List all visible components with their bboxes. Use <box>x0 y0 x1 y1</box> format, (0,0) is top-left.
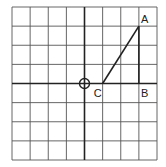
point-label-a: A <box>141 13 149 25</box>
point-label-c: C <box>94 87 102 99</box>
point-label-b: B <box>141 87 148 99</box>
axes <box>12 7 157 160</box>
coordinate-grid-diagram: A B C <box>0 0 166 167</box>
